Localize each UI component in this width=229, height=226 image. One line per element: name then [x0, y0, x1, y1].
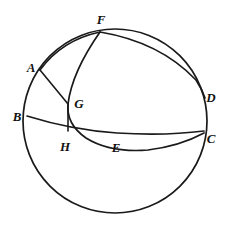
- arc-bec: [27, 116, 204, 134]
- point-label-b: B: [13, 110, 22, 123]
- point-label-g: G: [74, 97, 83, 110]
- figure-canvas: [0, 0, 229, 226]
- arc-afd: [40, 32, 205, 98]
- point-label-e: E: [112, 141, 121, 154]
- geometry-figure: F A D G B C H E: [0, 0, 229, 226]
- point-label-a: A: [27, 61, 36, 74]
- point-label-c: C: [207, 132, 216, 145]
- point-label-d: D: [206, 91, 215, 104]
- point-label-f: F: [97, 13, 106, 26]
- segment-ag: [40, 70, 68, 104]
- point-label-h: H: [60, 140, 70, 153]
